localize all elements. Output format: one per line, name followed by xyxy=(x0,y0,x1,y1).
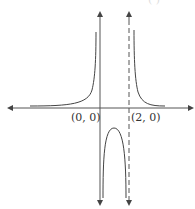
top-clipped-label: ( ) xyxy=(148,0,160,6)
origin-label: (0, 0) xyxy=(71,111,101,124)
curve-left-branch xyxy=(30,32,96,106)
graph xyxy=(0,0,195,209)
curve-right-branch xyxy=(134,30,165,106)
point-2-label: (2, 0) xyxy=(131,111,161,124)
curve-middle-branch xyxy=(103,128,126,198)
